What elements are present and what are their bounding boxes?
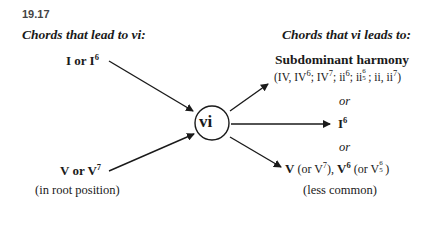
target-subdominant-detail: (IV, IV6; IV7; ii6; ii65; ii, ii7) [274, 71, 401, 83]
or-label-2: or [339, 140, 350, 155]
arrow-vi-to-subdominant [230, 84, 268, 111]
arrow-vi-to-v [230, 137, 281, 167]
target-dominant: V (or V7), V6 (or V65) [285, 161, 389, 177]
arrow-i-to-vi [109, 61, 193, 111]
center-vi-label: vi [199, 112, 212, 132]
target-subdominant-title: Subdominant harmony [275, 52, 409, 68]
right-heading: Chords that vi leads to: [282, 27, 411, 43]
arrow-v-to-vi [109, 134, 194, 171]
target-dominant-note: (less common) [303, 183, 377, 198]
or-label-1: or [339, 94, 350, 109]
target-i6: I6 [338, 116, 347, 132]
